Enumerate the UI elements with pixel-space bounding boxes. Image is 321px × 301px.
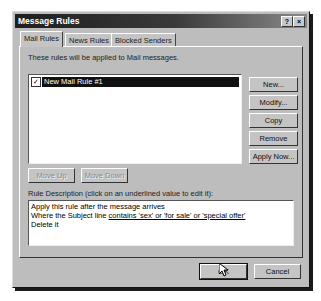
list-item[interactable]: ✓ New Mail Rule #1 — [31, 77, 239, 87]
tab-mail-rules[interactable]: Mail Rules — [20, 31, 63, 47]
remove-button[interactable]: Remove — [249, 131, 298, 146]
move-down-button[interactable]: Move Down — [81, 168, 128, 183]
new-button[interactable]: New... — [249, 77, 298, 92]
mail-rules-panel: These rules will be applied to Mail mess… — [19, 46, 303, 258]
subject-criteria-link[interactable]: contains 'sex' or 'for sale' or 'special… — [109, 211, 246, 220]
description-line-2-prefix: Where the Subject line — [31, 211, 109, 220]
message-rules-dialog: Message Rules ? × Mail Rules News Rules … — [12, 11, 310, 288]
cancel-button[interactable]: Cancel — [254, 264, 301, 279]
description-line-2: Where the Subject line contains 'sex' or… — [31, 211, 291, 220]
rule-name: New Mail Rule #1 — [42, 77, 239, 87]
close-button[interactable]: × — [293, 16, 305, 27]
rule-description-label: Rule Description (click on an underlined… — [28, 189, 213, 198]
modify-button[interactable]: Modify... — [249, 95, 298, 110]
tab-blocked-senders[interactable]: Blocked Senders — [111, 33, 176, 47]
rule-description-box: Apply this rule after the message arrive… — [28, 200, 294, 246]
mouse-pointer-icon — [219, 263, 229, 277]
apply-now-button[interactable]: Apply Now... — [249, 149, 298, 164]
copy-button[interactable]: Copy — [249, 113, 298, 128]
description-line-3: Delete it — [31, 220, 291, 229]
intro-text: These rules will be applied to Mail mess… — [28, 53, 179, 62]
help-button[interactable]: ? — [281, 16, 293, 27]
window-title: Message Rules — [18, 16, 79, 26]
rule-enabled-checkbox[interactable]: ✓ — [31, 77, 41, 87]
tab-news-rules[interactable]: News Rules — [65, 33, 113, 47]
rules-list[interactable]: ✓ New Mail Rule #1 — [28, 74, 242, 164]
description-line-1: Apply this rule after the message arrive… — [31, 202, 291, 211]
title-bar[interactable]: Message Rules ? × — [15, 14, 307, 28]
move-up-button[interactable]: Move Up — [28, 168, 75, 183]
